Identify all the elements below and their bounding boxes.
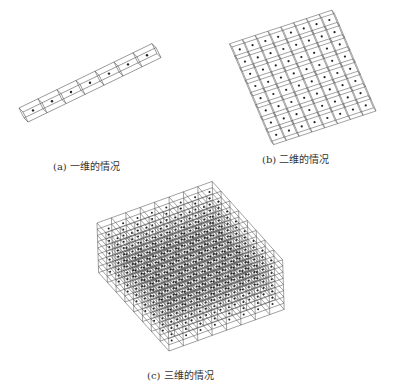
caption-b: (b) 二维的情况 [262,151,329,166]
diagram-3d-lattice [0,0,396,385]
caption-a: (a) 一维的情况 [53,158,120,173]
caption-c: (c) 三维的情况 [147,367,214,382]
panel-c-3d [0,0,396,385]
